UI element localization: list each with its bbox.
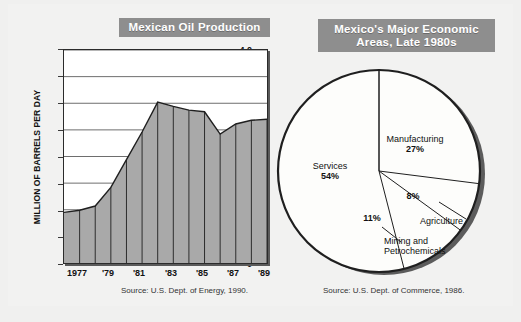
left-chart-title-text: Mexican Oil Production bbox=[128, 21, 260, 34]
x-tick-1983: '83 bbox=[156, 268, 186, 278]
pie-label-mining-name-line2: Petrochemicals bbox=[384, 246, 446, 256]
x-tick-1985: '85 bbox=[187, 268, 217, 278]
pie-label-services: Services 54% bbox=[290, 161, 370, 182]
x-tick-1987: '87 bbox=[218, 268, 248, 278]
right-chart-source: Source: U.S. Dept. of Commerce, 1986. bbox=[323, 286, 464, 295]
x-tick-1981: '81 bbox=[124, 268, 154, 278]
y-tickmark-0 bbox=[58, 264, 63, 265]
area-chart-svg bbox=[64, 50, 267, 263]
left-chart-source: Source: U.S. Dept. of Energy, 1990. bbox=[121, 286, 248, 295]
pie-label-mining-name-line1: Mining and bbox=[384, 236, 428, 246]
x-tick-1979: '79 bbox=[93, 268, 123, 278]
x-tick-1977: 1977 bbox=[62, 268, 92, 278]
figure-page: Mexican Oil Production MILLION OF BARREL… bbox=[0, 0, 521, 322]
pie-label-manufacturing-name: Manufacturing bbox=[386, 134, 443, 144]
pie-chart-container: Services 54% Manufacturing 27% 8% Agricu… bbox=[270, 56, 505, 286]
right-chart-title-text: Mexico's Major Economic Areas, Late 1980… bbox=[334, 23, 479, 49]
plot-area bbox=[63, 49, 268, 264]
left-chart-title-bar: Mexican Oil Production bbox=[119, 18, 270, 37]
right-chart-title-line1: Mexico's Major Economic bbox=[334, 23, 479, 35]
pie-label-agriculture-pct: 8% bbox=[395, 191, 431, 201]
right-chart-title-line2: Areas, Late 1980s bbox=[356, 36, 457, 48]
pie-label-manufacturing: Manufacturing 27% bbox=[370, 134, 460, 155]
y-axis-title: MILLION OF BARRELS PER DAY bbox=[32, 77, 42, 237]
pie-label-services-pct: 54% bbox=[290, 171, 370, 181]
pie-label-agriculture-name: Agriculture bbox=[420, 216, 492, 226]
right-chart-title-bar: Mexico's Major Economic Areas, Late 1980… bbox=[318, 19, 495, 52]
pie-label-mining-pct: 11% bbox=[354, 213, 390, 223]
pie-label-manufacturing-pct: 27% bbox=[370, 144, 460, 154]
pie-label-mining-name: Mining and Petrochemicals bbox=[384, 236, 480, 257]
pie-label-services-name: Services bbox=[313, 161, 348, 171]
